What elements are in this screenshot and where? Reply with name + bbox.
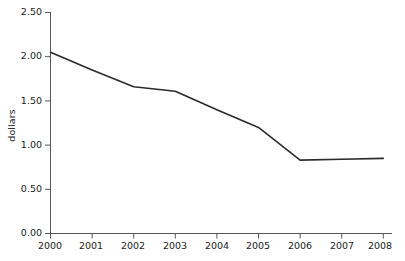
plot-area	[0, 0, 405, 261]
y-tick-marks	[45, 13, 51, 234]
x-tick-marks	[51, 234, 384, 239]
line-chart: dollars 2.50 2.00 1.50 1.00 0.50 0.00 20…	[0, 0, 405, 261]
data-series-line	[51, 52, 384, 160]
